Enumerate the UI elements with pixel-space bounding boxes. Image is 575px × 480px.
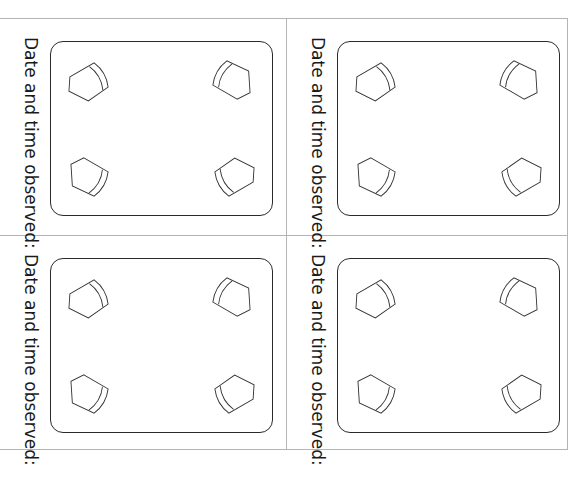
- bucket-icons: [287, 236, 572, 452]
- bucket-icon: [211, 152, 260, 197]
- bucket-icon: [497, 58, 546, 103]
- bucket-icon: [210, 58, 259, 103]
- bucket-icon: [497, 275, 546, 320]
- bucket-icon: [63, 61, 112, 106]
- observation-card-bottom-left: Date and time observed:: [0, 236, 285, 452]
- observation-card-bottom-right: Date and time observed:: [287, 236, 572, 452]
- bucket-icon: [498, 369, 547, 414]
- bucket-icon: [211, 369, 260, 414]
- observation-card-top-right: Date and time observed:: [287, 19, 572, 235]
- bucket-icon: [349, 154, 398, 199]
- bucket-icon: [63, 278, 112, 323]
- bucket-icon: [349, 371, 398, 416]
- bucket-icons: [0, 19, 285, 235]
- bucket-icon: [62, 371, 111, 416]
- bucket-icons: [287, 19, 572, 235]
- observation-card-top-left: Date and time observed:: [0, 19, 285, 235]
- bucket-icon: [498, 152, 547, 197]
- bucket-icons: [0, 236, 285, 452]
- bucket-icon: [350, 278, 399, 323]
- bucket-icon: [62, 154, 111, 199]
- bucket-icon: [350, 61, 399, 106]
- bucket-icon: [210, 275, 259, 320]
